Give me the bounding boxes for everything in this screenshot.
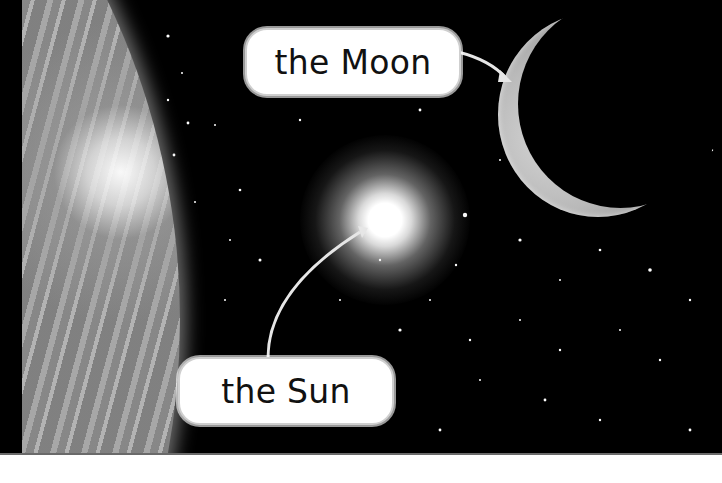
moon-label-text: the Moon [275, 43, 432, 82]
moon-pointer-arrowhead [498, 70, 512, 82]
bottom-white-margin [0, 453, 722, 483]
sun-label: the Sun [178, 357, 394, 425]
sun-pointer-line [268, 232, 360, 358]
moon-label: the Moon [245, 28, 461, 96]
sun-label-text: the Sun [221, 372, 351, 411]
space-scene: the Moon the Sun [0, 0, 722, 453]
moon-pointer-line [458, 52, 506, 78]
